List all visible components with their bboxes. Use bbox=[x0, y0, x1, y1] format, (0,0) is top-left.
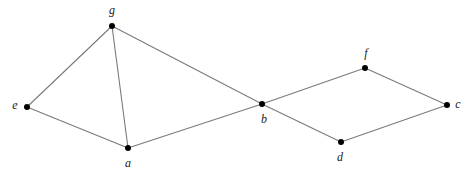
label-layer: geabfdc bbox=[12, 3, 461, 170]
graph-node-a[interactable] bbox=[125, 145, 131, 151]
graph-edge-b-f bbox=[262, 68, 365, 104]
graph-diagram: geabfdc bbox=[0, 0, 470, 178]
graph-node-c[interactable] bbox=[444, 102, 450, 108]
graph-node-d[interactable] bbox=[338, 139, 344, 145]
graph-edge-a-b bbox=[128, 104, 262, 148]
graph-node-label-g: g bbox=[109, 3, 115, 17]
graph-canvas: geabfdc bbox=[0, 0, 470, 178]
graph-edge-g-a bbox=[112, 26, 128, 148]
graph-edge-g-e bbox=[27, 26, 112, 107]
graph-node-e[interactable] bbox=[24, 104, 30, 110]
graph-node-label-f: f bbox=[364, 46, 369, 60]
graph-edge-b-d bbox=[262, 104, 341, 142]
graph-node-f[interactable] bbox=[362, 65, 368, 71]
graph-node-label-b: b bbox=[261, 112, 267, 126]
graph-node-g[interactable] bbox=[109, 23, 115, 29]
graph-edge-d-c bbox=[341, 105, 447, 142]
graph-edge-g-b bbox=[112, 26, 262, 104]
graph-node-label-e: e bbox=[12, 98, 18, 112]
edge-layer bbox=[27, 26, 447, 148]
graph-edge-f-c bbox=[365, 68, 447, 105]
graph-edge-e-a bbox=[27, 107, 128, 148]
graph-node-label-c: c bbox=[455, 97, 461, 111]
graph-node-b[interactable] bbox=[259, 101, 265, 107]
graph-node-label-d: d bbox=[337, 150, 344, 164]
graph-node-label-a: a bbox=[125, 156, 131, 170]
